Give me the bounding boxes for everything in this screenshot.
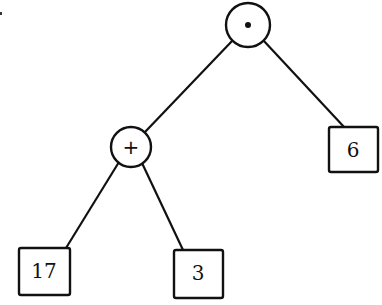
plus-node: + [111,127,151,167]
root-label: · [245,13,251,37]
edge-root-six [263,40,345,128]
leaf-six: 6 [329,127,378,172]
expression-tree-diagram: · + 6 17 3 [0,0,382,305]
six-label: 6 [347,138,360,162]
edge-plus-seventeen [66,162,119,248]
three-label: 3 [192,261,205,285]
leaf-seventeen: 17 [19,248,70,295]
leaf-three: 3 [174,250,223,298]
plus-label: + [123,135,140,159]
stray-mark [0,12,2,15]
edge-root-plus [145,40,233,132]
edge-plus-three [142,163,183,250]
root-node-multiply: · [226,3,270,47]
seventeen-label: 17 [31,259,56,283]
